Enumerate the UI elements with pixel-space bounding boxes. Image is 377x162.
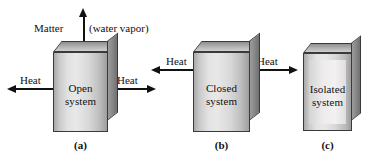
- open-system-box-front-face: [53, 52, 108, 132]
- closed-heat-left-arrow-head-icon: [151, 66, 160, 74]
- isolated-system-insulation-layer: [309, 60, 346, 124]
- closed-system-box-front-face: [193, 52, 250, 132]
- matter-label: Matter: [34, 22, 63, 34]
- isolated-system-box: Isolated system: [303, 43, 365, 132]
- caption-c: (c): [303, 139, 352, 151]
- open-system-box-side-face: [107, 32, 118, 121]
- closed-system-box: Closed system: [193, 41, 261, 132]
- closed-system-box-side-face: [249, 32, 260, 121]
- open-heat-right-arrow-head-icon: [147, 85, 156, 93]
- isolated-system-box-side-face: [351, 35, 361, 121]
- open-system-box: Open system: [53, 41, 121, 132]
- caption-a: (a): [53, 139, 108, 151]
- closed-heat-right-arrow-head-icon: [289, 66, 298, 74]
- thermodynamic-systems-figure: Matter (water vapor) Heat Heat Open syst…: [0, 0, 377, 162]
- water-vapor-label: (water vapor): [89, 22, 149, 34]
- open-heat-left-arrow-head-icon: [7, 85, 16, 93]
- open-heat-left-shaft: [16, 88, 54, 90]
- caption-b: (b): [193, 139, 250, 151]
- closed-heat-left-label: Heat: [166, 55, 187, 67]
- open-heat-left-label: Heat: [20, 74, 41, 86]
